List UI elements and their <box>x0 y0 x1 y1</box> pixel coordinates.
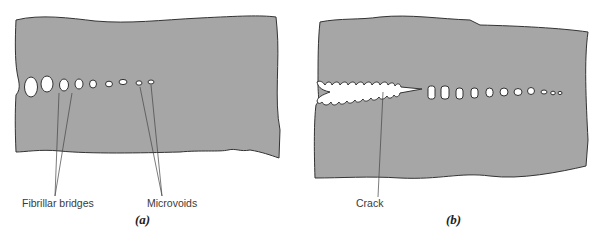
caption-b: (b) <box>446 212 461 227</box>
caption-a: (a) <box>135 212 150 227</box>
polymer-slab-a <box>15 16 280 158</box>
label-fibrillar-bridges: Fibrillar bridges <box>22 197 94 209</box>
panel-b: Crack (b) <box>314 16 588 227</box>
label-microvoids: Microvoids <box>147 197 197 209</box>
panel-a: Fibrillar bridges Microvoids (a) <box>15 16 280 227</box>
label-crack: Crack <box>356 197 384 209</box>
crazing-diagram: Fibrillar bridges Microvoids (a) Crack (… <box>0 0 605 239</box>
